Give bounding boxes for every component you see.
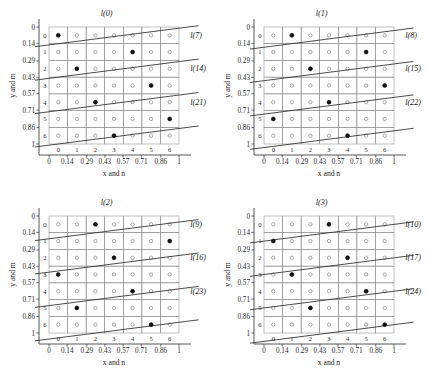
n-index-label: 1 (75, 335, 78, 342)
line-label: l(21) (190, 98, 206, 107)
y-tick-label: 0.57 (237, 90, 250, 98)
lattice-point (131, 289, 135, 293)
n-index-label: 0 (57, 146, 61, 153)
panel-bottom-right: 000.140.140.290.290.430.430.570.570.710.… (215, 189, 429, 377)
x-tick-label: 0.57 (117, 347, 130, 355)
n-index-label: 6 (383, 146, 387, 153)
lattice-point (327, 222, 331, 226)
n-index-label: 6 (168, 146, 172, 153)
x-tick-label: 1 (392, 347, 396, 355)
panel-top-left-canvas: 000.140.140.290.290.430.430.570.570.710.… (0, 0, 214, 188)
figure-four-panel-line-grid: 000.140.140.290.290.430.430.570.570.710.… (0, 0, 429, 377)
lattice-point (56, 33, 60, 37)
m-index-label: 6 (258, 132, 262, 139)
y-tick-label: 0.57 (22, 279, 35, 287)
y-tick-label: 0.43 (237, 263, 250, 271)
n-index-label: 3 (327, 146, 331, 153)
n-index-label: 5 (149, 146, 153, 153)
n-index-label: 5 (364, 146, 368, 153)
y-tick-label: 0.29 (22, 246, 35, 254)
lattice-point (271, 239, 275, 243)
n-index-label: 2 (94, 335, 97, 342)
x-tick-label: 0.43 (99, 347, 112, 355)
n-index-label: 5 (149, 335, 153, 342)
line-label: l(24) (405, 287, 421, 296)
m-index-label: 3 (43, 82, 47, 89)
x-tick-label: 0.86 (155, 347, 168, 355)
y-axis-title: y and m (223, 73, 232, 98)
panel-top-left: 000.140.140.290.290.430.430.570.570.710.… (0, 0, 214, 188)
cell-center-markers (272, 34, 387, 138)
lattice-point (364, 50, 368, 54)
n-index-label: 0 (272, 146, 276, 153)
lattice-point (383, 84, 387, 88)
line-label: l(15) (405, 64, 421, 73)
m-index-label: 4 (258, 99, 262, 106)
x-tick-label: 0 (262, 158, 266, 166)
y-tick-label: 1 (246, 330, 250, 338)
lattice-point (149, 84, 153, 88)
line-labels: l(3)l(10)l(17)l(24) (316, 198, 422, 296)
x-axis-title: x and n (318, 358, 341, 367)
lattice-point (75, 306, 79, 310)
lattice-point (346, 256, 350, 260)
y-tick-label: 0.43 (22, 74, 35, 82)
lattice-point (56, 273, 60, 277)
lattice-point (308, 306, 312, 310)
n-index-label: 6 (168, 335, 172, 342)
lattice-point (290, 273, 294, 277)
line-labels: l(2)l(9)l(16)l(23) (101, 198, 207, 296)
x-tick-label: 1 (177, 347, 181, 355)
lattice-point (149, 323, 153, 327)
lattice-point (112, 256, 116, 260)
y-tick-label: 1 (31, 141, 35, 149)
m-index-label: 1 (258, 48, 261, 55)
m-index-label: 5 (43, 304, 47, 311)
line-labels: l(0)l(7)l(14)l(21) (101, 9, 207, 107)
m-index-label: 1 (258, 237, 261, 244)
panel-bottom-right-canvas: 000.140.140.290.290.430.430.570.570.710.… (215, 189, 429, 377)
n-index-label: 2 (94, 146, 97, 153)
x-tick-label: 0.57 (332, 158, 345, 166)
line-label: l(0) (101, 9, 113, 18)
x-tick-label: 0 (47, 158, 51, 166)
y-tick-label: 0.86 (22, 124, 35, 132)
n-index-label: 6 (383, 335, 387, 342)
y-tick-label: 0 (246, 24, 250, 32)
x-tick-label: 0.57 (332, 347, 345, 355)
x-tick-label: 1 (392, 158, 396, 166)
panel-bottom-left-canvas: 000.140.140.290.290.430.430.570.570.710.… (0, 189, 214, 377)
m-index-label: 2 (43, 254, 46, 261)
lattice-point (383, 323, 387, 327)
y-tick-label: 0.86 (22, 313, 35, 321)
m-index-label: 4 (258, 288, 262, 295)
y-axis-title: y and m (8, 262, 17, 287)
panel-bottom-left: 000.140.140.290.290.430.430.570.570.710.… (0, 189, 214, 377)
lattice-point (308, 67, 312, 71)
panel-top-right: 000.140.140.290.290.430.430.570.570.710.… (215, 0, 429, 188)
line-l1 (248, 28, 413, 49)
y-tick-label: 0.86 (237, 124, 250, 132)
lattice-point (112, 134, 116, 138)
x-tick-label: 0.29 (80, 347, 93, 355)
m-index-label: 3 (43, 271, 47, 278)
axis-ticks: 000.140.140.290.290.430.430.570.570.710.… (237, 213, 396, 356)
line-label: l(22) (405, 98, 421, 107)
y-tick-label: 0 (31, 24, 35, 32)
n-index-label: 4 (346, 146, 350, 153)
m-index-label: 2 (258, 65, 261, 72)
line-l22 (248, 128, 413, 149)
grid-lines (248, 28, 413, 150)
line-l8 (248, 61, 413, 82)
line-label: l(8) (405, 31, 417, 40)
x-tick-label: 0 (47, 347, 51, 355)
lattice-point (75, 67, 79, 71)
n-index-label: 2 (309, 335, 312, 342)
y-tick-label: 0.29 (22, 57, 35, 65)
m-index-label: 0 (258, 32, 262, 39)
n-index-label: 3 (112, 146, 116, 153)
x-tick-label: 0.43 (99, 158, 112, 166)
m-index-label: 2 (258, 254, 261, 261)
lattice-point (346, 134, 350, 138)
y-axis-title: y and m (223, 262, 232, 287)
